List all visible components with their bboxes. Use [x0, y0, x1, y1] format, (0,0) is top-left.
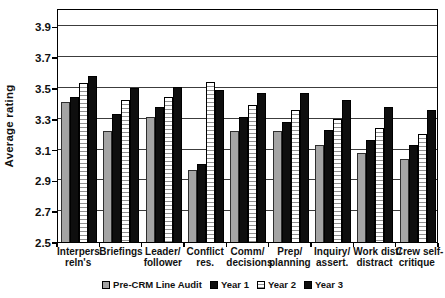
- legend-label: Year 2: [268, 279, 296, 290]
- x-axis-label-line: follower: [142, 258, 184, 269]
- bar: [155, 107, 164, 243]
- bar-group-8: [354, 107, 396, 243]
- bar: [164, 97, 173, 242]
- legend-swatch-icon: [304, 281, 312, 289]
- bar: [121, 100, 130, 242]
- bar: [375, 128, 384, 242]
- legend-item-year-1: Year 1: [210, 279, 249, 290]
- y-axis-title: Average rating: [3, 9, 17, 243]
- x-axis-label-line: planning: [269, 258, 311, 269]
- bar: [188, 170, 197, 242]
- x-axis-label-line: reln's: [57, 258, 99, 269]
- bar: [257, 93, 266, 242]
- y-tick-label-2.9: 2.9: [17, 175, 51, 187]
- plot-area: [57, 9, 438, 243]
- gridline-3.9: [58, 25, 437, 26]
- bar-group-4: [185, 82, 227, 242]
- bar: [400, 159, 409, 242]
- bar-group-2: [100, 88, 142, 242]
- bar: [112, 114, 121, 242]
- x-axis-label-6: Prep/planning: [269, 247, 311, 268]
- bar-group-1: [58, 76, 100, 242]
- x-axis-label-line: res.: [184, 258, 226, 269]
- legend-label: Year 3: [315, 279, 343, 290]
- bar: [427, 110, 436, 242]
- bar: [197, 164, 206, 243]
- legend-swatch-icon: [257, 281, 265, 289]
- legend-item-pre-crm-line-audit: Pre-CRM Line Audit: [102, 279, 202, 290]
- bar: [248, 105, 257, 242]
- bar-group-9: [397, 110, 439, 242]
- x-axis-label-7: Inquiry/assert.: [311, 247, 353, 268]
- bar: [357, 153, 366, 242]
- bar: [70, 97, 79, 242]
- legend-label: Year 1: [221, 279, 249, 290]
- x-axis-label-2: Briefings: [99, 247, 141, 258]
- bar: [342, 100, 351, 242]
- y-tick-mark-2.9: [52, 181, 57, 183]
- bar: [324, 130, 333, 242]
- x-axis-label-line: Interpers.: [57, 247, 99, 258]
- x-axis-label-line: assert.: [311, 258, 353, 269]
- bar: [103, 131, 112, 242]
- legend: Pre-CRM Line AuditYear 1Year 2Year 3: [0, 279, 445, 290]
- y-tick-label-3.9: 3.9: [17, 21, 51, 33]
- y-tick-label-3.7: 3.7: [17, 52, 51, 64]
- y-tick-label-3.1: 3.1: [17, 145, 51, 157]
- bar: [333, 119, 342, 242]
- x-axis-label-1: Interpers.reln's: [57, 247, 99, 268]
- bar: [300, 93, 309, 242]
- y-tick-label-2.7: 2.7: [17, 206, 51, 218]
- bar: [215, 90, 224, 243]
- bar: [173, 87, 182, 243]
- bar-group-3: [143, 87, 185, 243]
- x-axis-label-line: Comm/: [226, 247, 268, 258]
- bar: [418, 134, 427, 242]
- x-axis-label-line: critique: [396, 258, 438, 269]
- x-axis-label-3: Leader/follower: [142, 247, 184, 268]
- x-axis-label-line: Prep/: [269, 247, 311, 258]
- bar: [315, 145, 324, 242]
- bar: [282, 122, 291, 242]
- legend-swatch-icon: [102, 281, 110, 289]
- y-tick-label-3.3: 3.3: [17, 114, 51, 126]
- x-axis-label-8: Work dist/distract: [353, 247, 395, 268]
- bar: [61, 102, 70, 242]
- x-axis-label-9: Crew self-critique: [396, 247, 438, 268]
- bar-group-7: [312, 100, 354, 242]
- bar: [206, 82, 215, 242]
- x-axis-label-line: distract: [353, 258, 395, 269]
- x-axis-label-line: Crew self-: [396, 247, 438, 258]
- legend-item-year-2: Year 2: [257, 279, 296, 290]
- bar: [273, 131, 282, 242]
- bar: [239, 117, 248, 242]
- bar: [409, 145, 418, 242]
- bar: [230, 131, 239, 242]
- bar: [146, 117, 155, 242]
- x-axis-label-line: Inquiry/: [311, 247, 353, 258]
- x-axis-label-line: Leader/: [142, 247, 184, 258]
- gridline-3.7: [58, 56, 437, 57]
- y-tick-mark-3.9: [52, 27, 57, 29]
- y-tick-mark-3.7: [52, 57, 57, 59]
- bar-group-5: [227, 93, 269, 242]
- y-tick-mark-3.5: [52, 88, 57, 90]
- bar: [366, 140, 375, 242]
- x-axis-label-line: decisions: [226, 258, 268, 269]
- x-axis-label-5: Comm/decisions: [226, 247, 268, 268]
- y-tick-label-2.5: 2.5: [17, 237, 51, 249]
- x-axis-label-line: Work dist/: [353, 247, 395, 258]
- x-axis-label-line: Briefings: [99, 247, 141, 258]
- y-tick-mark-3.1: [52, 150, 57, 152]
- bar: [79, 83, 88, 242]
- bar: [384, 107, 393, 243]
- y-tick-mark-2.7: [52, 211, 57, 213]
- bar-group-6: [270, 93, 312, 242]
- legend-label: Pre-CRM Line Audit: [113, 279, 202, 290]
- bar: [291, 110, 300, 242]
- x-axis-label-line: Conflict: [184, 247, 226, 258]
- y-tick-label-3.5: 3.5: [17, 83, 51, 95]
- x-axis-label-4: Conflictres.: [184, 247, 226, 268]
- bar: [130, 88, 139, 242]
- crm-average-rating-bar-chart: Average rating 2.52.72.93.13.33.53.73.9 …: [0, 0, 445, 298]
